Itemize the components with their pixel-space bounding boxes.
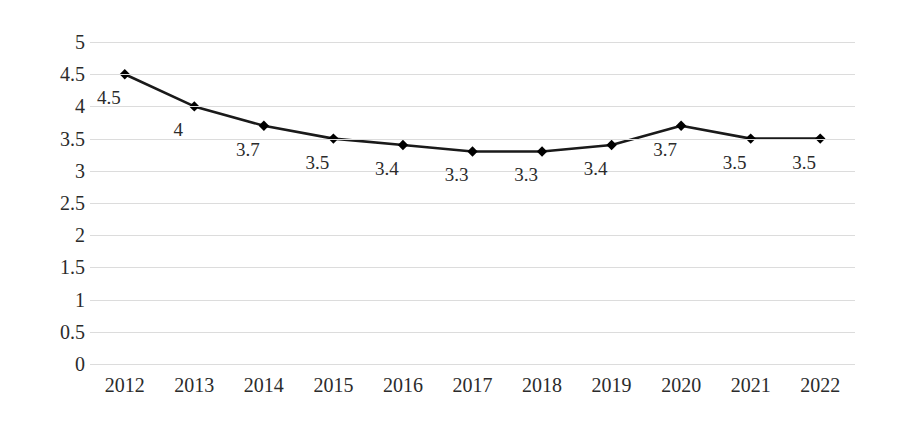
data-point-label: 3.7: [653, 140, 677, 159]
gridline: [90, 42, 855, 43]
data-point-label: 3.5: [723, 153, 747, 172]
x-axis-tick-label: 2020: [661, 374, 701, 396]
line-chart: 54.543.532.521.510.50 4.543.73.53.43.33.…: [0, 0, 899, 424]
x-axis-tick-label: 2019: [592, 374, 632, 396]
data-point-label: 3.3: [514, 165, 538, 184]
gridline: [90, 139, 855, 140]
data-point-label: 4: [174, 120, 184, 139]
y-axis-tick-label: 5: [75, 32, 85, 52]
gridline: [90, 300, 855, 301]
y-axis-tick-label: 0: [75, 354, 85, 374]
y-axis-tick-label: 0.5: [60, 322, 85, 342]
y-axis-tick-label: 2.5: [60, 193, 85, 213]
gridline: [90, 267, 855, 268]
x-axis-tick-label: 2018: [522, 374, 562, 396]
gridline: [90, 106, 855, 107]
gridline: [90, 74, 855, 75]
y-axis-tick-label: 4: [75, 96, 85, 116]
data-point-label: 3.7: [236, 140, 260, 159]
y-axis: 54.543.532.521.510.50: [0, 42, 85, 364]
gridline: [90, 332, 855, 333]
x-axis-tick-label: 2016: [383, 374, 423, 396]
data-point-label: 3.3: [445, 165, 469, 184]
x-axis-tick-label: 2015: [313, 374, 353, 396]
y-axis-tick-label: 1: [75, 290, 85, 310]
x-axis-tick-label: 2021: [731, 374, 771, 396]
gridline: [90, 235, 855, 236]
y-axis-tick-label: 3.5: [60, 129, 85, 149]
data-point-label: 3.5: [306, 153, 330, 172]
data-point-marker: [537, 146, 547, 156]
data-point-label: 3.4: [375, 159, 399, 178]
x-axis-tick-label: 2022: [800, 374, 840, 396]
x-axis: 2012201320142015201620172018201920202021…: [90, 374, 855, 404]
y-axis-tick-label: 3: [75, 161, 85, 181]
series-polyline: [125, 74, 820, 151]
y-axis-tick-label: 2: [75, 225, 85, 245]
data-point-marker: [259, 121, 269, 131]
data-point-marker: [606, 140, 616, 150]
gridline: [90, 364, 855, 365]
x-axis-tick-label: 2013: [174, 374, 214, 396]
data-point-label: 3.5: [792, 153, 816, 172]
data-point-marker: [467, 146, 477, 156]
data-point-label: 3.4: [584, 159, 608, 178]
data-point-label: 4.5: [97, 88, 121, 107]
y-axis-tick-label: 1.5: [60, 257, 85, 277]
x-axis-tick-label: 2014: [244, 374, 284, 396]
gridline: [90, 203, 855, 204]
x-axis-tick-label: 2012: [105, 374, 145, 396]
data-point-marker: [676, 121, 686, 131]
x-axis-tick-label: 2017: [453, 374, 493, 396]
data-point-marker: [398, 140, 408, 150]
y-axis-tick-label: 4.5: [60, 64, 85, 84]
plot-area: 4.543.73.53.43.33.33.43.73.53.5: [90, 42, 855, 364]
